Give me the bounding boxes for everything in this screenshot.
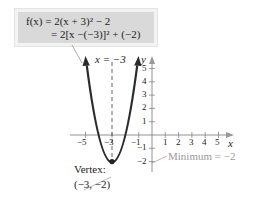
x-axis-label: x <box>228 137 233 149</box>
minimum-label: Minimum = −2 <box>168 150 235 162</box>
curve-left-arrow-icon <box>83 56 90 66</box>
y-tick-label: 3 <box>142 89 147 99</box>
y-tick-label: 5 <box>142 63 147 73</box>
vertex-coords: (−3, −2) <box>74 178 110 190</box>
parabola-graph <box>0 0 259 200</box>
x-tick-label: 3 <box>189 137 194 147</box>
y-tick-label: −1 <box>137 142 147 152</box>
x-tick-label: −3 <box>104 137 114 147</box>
x-tick-label: −5 <box>77 137 87 147</box>
y-tick-label: 4 <box>142 76 147 86</box>
y-tick-label: 2 <box>142 102 147 112</box>
x-tick-label: 1 <box>163 137 168 147</box>
axis-of-symmetry-label: x = −3 <box>95 53 126 65</box>
x-tick-label: 4 <box>202 137 207 147</box>
vertex-point <box>109 159 114 164</box>
y-axis-arrow-icon <box>149 56 155 64</box>
y-tick-label: 1 <box>142 116 147 126</box>
minimum-callout-line <box>152 156 167 163</box>
vertex-title: Vertex: <box>74 163 106 175</box>
y-tick-label: −2 <box>137 156 147 166</box>
x-tick-label: 5 <box>215 137 220 147</box>
x-tick-label: 2 <box>176 137 181 147</box>
formula-callout-line <box>72 45 82 63</box>
